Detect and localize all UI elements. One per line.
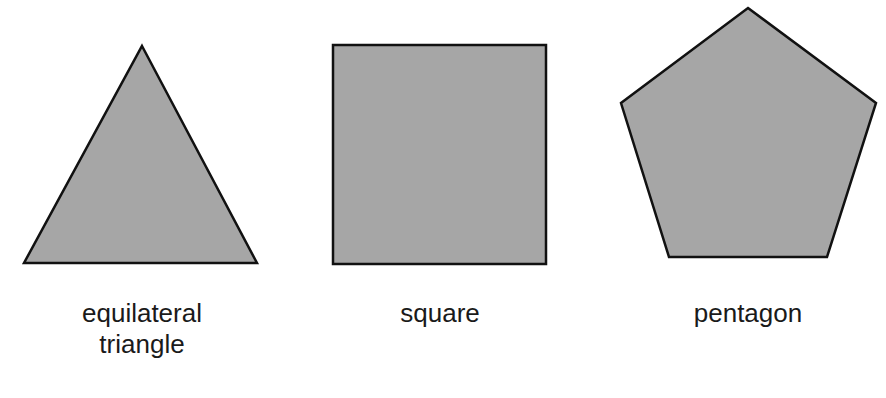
pentagon-shape	[621, 8, 876, 257]
square-label-line1: square	[310, 298, 570, 329]
pentagon-label-line1: pentagon	[618, 298, 878, 329]
square-shape	[333, 45, 546, 264]
triangle-label: equilateral triangle	[12, 298, 272, 360]
square-label: square	[310, 298, 570, 329]
triangle-shape	[24, 46, 257, 263]
triangle-label-line2: triangle	[12, 329, 272, 360]
pentagon-label: pentagon	[618, 298, 878, 329]
triangle-label-line1: equilateral	[12, 298, 272, 329]
